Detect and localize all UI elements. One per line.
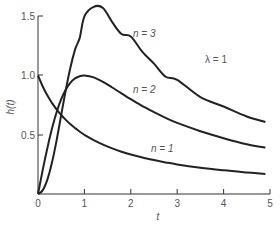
- x-tick-label: 4: [221, 198, 227, 209]
- hazard-chart: 1.5 1.0 0.5 0 1 2 3 4 5 t h(t) λ = 1 n =…: [0, 0, 280, 227]
- series-label-n3: n = 3: [133, 28, 156, 39]
- x-tick-label: 1: [82, 198, 88, 209]
- x-tick-label: 2: [128, 198, 134, 209]
- series-label-n1: n = 1: [151, 143, 174, 154]
- x-tick-label: 0: [35, 198, 41, 209]
- y-tick-label: 1.0: [21, 70, 35, 81]
- y-axis-title: h(t): [5, 100, 16, 115]
- series-label-n2: n = 2: [133, 84, 156, 95]
- y-tick-label: 0.5: [21, 130, 35, 141]
- x-axis-title: t: [157, 211, 161, 222]
- x-tick-label: 5: [267, 198, 273, 209]
- lambda-label: λ = 1: [205, 54, 227, 65]
- y-tick-label: 1.5: [21, 11, 35, 22]
- x-tick-label: 3: [174, 198, 180, 209]
